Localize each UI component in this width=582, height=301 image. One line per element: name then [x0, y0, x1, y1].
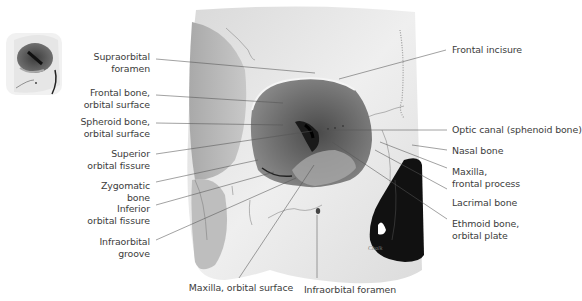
label-line: Infraorbital foramen [300, 284, 400, 296]
label-maxilla-frontal-process: Maxilla, frontal process [452, 166, 520, 190]
label-line: Spheroid bone, [80, 116, 150, 128]
label-line: orbital fissure [87, 160, 150, 172]
label-sphenoid-bone-orbital-surface: Spheroid bone, orbital surface [80, 116, 150, 140]
label-line: Frontal incisure [452, 44, 522, 56]
label-zygomatic-bone: Zygomatic bone [101, 180, 150, 204]
label-ethmoid-bone-orbital-plate: Ethmoid bone, orbital plate [452, 218, 519, 242]
label-line: Frontal bone, [84, 87, 150, 99]
label-nasal-bone: Nasal bone [452, 145, 503, 157]
label-line: Lacrimal bone [452, 197, 517, 209]
infraorbital-foramen-mark [316, 208, 320, 214]
label-line: Infraorbital [99, 236, 150, 248]
artist-signature: Chalk [368, 245, 383, 251]
label-line: orbital surface [84, 99, 150, 111]
label-line: Zygomatic [101, 180, 150, 192]
label-lacrimal-bone: Lacrimal bone [452, 197, 517, 209]
label-line: frontal process [452, 178, 520, 190]
label-maxilla-orbital-surface: Maxilla, orbital surface [185, 282, 297, 294]
label-line: Nasal bone [452, 145, 503, 157]
label-line: orbital surface [80, 128, 150, 140]
label-frontal-incisure: Frontal incisure [452, 44, 522, 56]
label-line: orbital plate [452, 230, 519, 242]
label-superior-orbital-fissure: Superior orbital fissure [87, 148, 150, 172]
label-line: Ethmoid bone, [452, 218, 519, 230]
label-line: Maxilla, orbital surface [185, 282, 297, 294]
thumbnail-skull [6, 33, 62, 95]
orbit-cavity [251, 78, 372, 187]
label-line: Supraorbital [94, 51, 150, 63]
label-line: Maxilla, [452, 166, 520, 178]
label-infraorbital-groove: Infraorbital groove [99, 236, 150, 260]
label-line: foramen [94, 63, 150, 75]
label-line: Superior [87, 148, 150, 160]
label-optic-canal: Optic canal (sphenoid bone) [452, 124, 582, 136]
label-frontal-bone-orbital-surface: Frontal bone, orbital surface [84, 87, 150, 111]
label-line: groove [99, 248, 150, 260]
label-line: Inferior [87, 203, 150, 215]
label-line: orbital fissure [87, 215, 150, 227]
label-line: Optic canal (sphenoid bone) [452, 124, 582, 136]
label-supraorbital-foramen: Supraorbital foramen [94, 51, 150, 75]
label-infraorbital-foramen: Infraorbital foramen [300, 284, 400, 296]
label-inferior-orbital-fissure: Inferior orbital fissure [87, 203, 150, 227]
